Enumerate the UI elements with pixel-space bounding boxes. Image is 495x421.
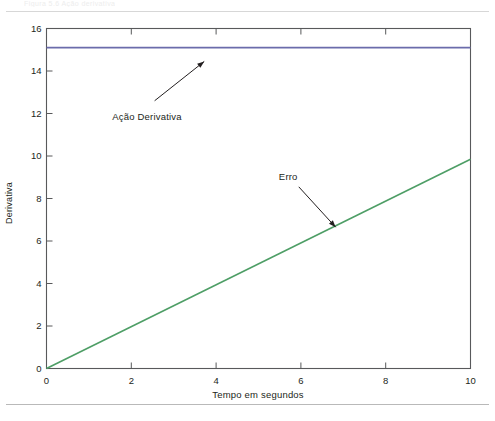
- y-tick-label: 12: [16, 108, 42, 119]
- annotation-label-1: Erro: [279, 171, 298, 182]
- annotation-arrow-1: [299, 187, 336, 227]
- y-axis-title: Derivativa: [4, 173, 14, 233]
- chart-svg: [0, 0, 495, 421]
- series-line-1: [47, 159, 471, 368]
- x-tick-label: 0: [32, 375, 62, 386]
- annotation-arrowhead-0: [197, 61, 204, 67]
- y-tick-label: 16: [16, 23, 42, 34]
- chart-figure: Derivativa Tempo em segundos 02468101214…: [0, 0, 495, 421]
- y-tick-label: 0: [16, 363, 42, 374]
- y-tick-label: 2: [16, 320, 42, 331]
- figure-page: Figura 5.6 Ação derivativa Derivativa Te…: [0, 0, 495, 421]
- annotation-label-0: Ação Derivativa: [112, 111, 182, 122]
- x-tick-label: 6: [286, 375, 316, 386]
- x-tick-label: 8: [371, 375, 401, 386]
- plot-frame: [47, 29, 471, 369]
- annotation-arrow-0: [155, 61, 205, 100]
- y-tick-label: 14: [16, 65, 42, 76]
- x-tick-label: 2: [116, 375, 146, 386]
- y-tick-label: 8: [16, 193, 42, 204]
- x-tick-label: 4: [201, 375, 231, 386]
- y-tick-label: 10: [16, 150, 42, 161]
- x-axis-title: Tempo em segundos: [46, 389, 470, 400]
- y-tick-label: 6: [16, 235, 42, 246]
- y-tick-label: 4: [16, 278, 42, 289]
- x-tick-label: 10: [456, 375, 486, 386]
